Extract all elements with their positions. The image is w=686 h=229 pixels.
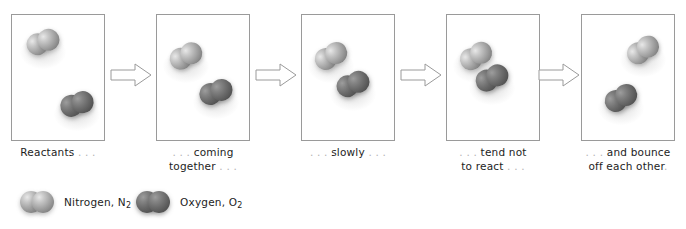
legend-formula-sub-oxygen: 2 — [237, 201, 242, 210]
caption-line: together . . . — [133, 159, 273, 173]
legend-item-nitrogen: Nitrogen, N2 — [20, 188, 131, 216]
caption-line: . . . slowly . . . — [278, 145, 418, 159]
molecule-nitrogen — [311, 38, 351, 74]
legend-label-oxygen: Oxygen, O2 — [180, 196, 243, 208]
panel-5-frame — [581, 14, 675, 141]
panel-1-frame — [11, 14, 105, 141]
panel-3-caption: . . . slowly . . . — [278, 145, 418, 159]
panel-5 — [581, 14, 675, 141]
legend-item-oxygen: Oxygen, O2 — [136, 188, 243, 216]
caption-ellipsis: . . . — [216, 160, 237, 172]
caption-ellipsis: . . . — [586, 146, 607, 158]
panel-1 — [11, 14, 105, 141]
legend-comma: , — [111, 196, 118, 208]
panel-4-frame — [446, 14, 540, 141]
molecular-collision-figure: Reactants . . . . . . coming together . … — [0, 0, 686, 229]
panel-3-frame — [301, 14, 395, 141]
arrow-1 — [110, 62, 152, 88]
caption-line: off each other. — [558, 159, 686, 173]
molecule-nitrogen — [20, 191, 54, 213]
atom — [32, 191, 54, 213]
molecule-nitrogen — [623, 31, 663, 68]
panel-4 — [446, 14, 540, 141]
panel-3 — [301, 14, 395, 141]
caption-line: . . . coming — [133, 145, 273, 159]
arrow-right-icon — [110, 62, 152, 88]
panel-2 — [156, 14, 250, 141]
panel-5-caption: . . . and bounce off each other. — [558, 145, 686, 173]
arrow-3 — [400, 62, 442, 88]
legend-swatch-oxygen — [136, 191, 170, 213]
molecule-oxygen — [333, 67, 373, 100]
legend-formula-sub-nitrogen: 2 — [126, 201, 131, 210]
arrow-2 — [255, 62, 297, 88]
molecule-oxygen — [57, 88, 96, 119]
legend-name-oxygen: Oxygen — [180, 196, 222, 208]
legend-label-nitrogen: Nitrogen, N2 — [64, 196, 131, 208]
molecule-oxygen — [601, 80, 641, 116]
panel-1-caption: Reactants . . . — [0, 145, 128, 159]
caption-line: . . . and bounce — [558, 145, 686, 159]
caption-ellipsis: . — [664, 160, 668, 172]
legend-comma: , — [222, 196, 229, 208]
caption-ellipsis: . . . — [310, 146, 331, 158]
caption-line: . . . tend not — [423, 145, 563, 159]
legend-formula-oxygen: O — [229, 196, 237, 208]
caption-line: Reactants . . . — [0, 145, 128, 159]
arrow-right-icon — [538, 62, 580, 88]
legend: Nitrogen, N2 Oxygen, O2 — [0, 188, 686, 222]
caption-ellipsis: . . . — [504, 160, 525, 172]
legend-name-nitrogen: Nitrogen — [64, 196, 111, 208]
arrow-4 — [538, 62, 580, 88]
panel-row: Reactants . . . . . . coming together . … — [0, 0, 686, 190]
panel-2-caption: . . . coming together . . . — [133, 145, 273, 173]
caption-ellipsis: . . . — [459, 146, 480, 158]
caption-ellipsis: . . . — [172, 146, 193, 158]
panel-2-frame — [156, 14, 250, 141]
legend-formula-nitrogen: N — [118, 196, 126, 208]
molecule-nitrogen — [23, 25, 63, 58]
molecule-oxygen — [196, 76, 235, 108]
atom — [148, 191, 170, 213]
arrow-right-icon — [255, 62, 297, 88]
legend-swatch-nitrogen — [20, 191, 54, 213]
molecule-nitrogen — [166, 38, 206, 73]
panel-4-caption: . . . tend not to react . . . — [423, 145, 563, 173]
caption-line: to react . . . — [423, 159, 563, 173]
molecule-oxygen — [136, 191, 170, 213]
caption-ellipsis: . . . — [365, 146, 386, 158]
caption-ellipsis: . . . — [74, 146, 95, 158]
arrow-right-icon — [400, 62, 442, 88]
